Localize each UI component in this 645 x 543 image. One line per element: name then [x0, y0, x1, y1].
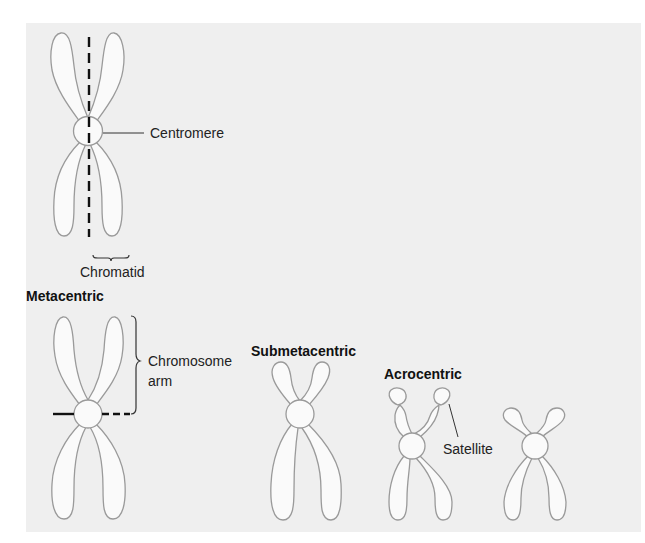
submetacentric-chromosome: Submetacentric	[251, 343, 356, 520]
metacentric-chromosome: Metacentric Chromosome arm	[26, 288, 232, 519]
submeta-lower-left-arm	[271, 424, 298, 520]
acrocentric-chromosome	[503, 408, 566, 520]
chromosome-arm-label-line1: Chromosome	[148, 353, 232, 369]
acrocentric-chromosome-satellite: Acrocentric Satellite	[384, 366, 493, 520]
submeta-centromere	[286, 400, 314, 428]
satellite-right	[434, 388, 450, 405]
acro2-lower-right-arm	[538, 456, 566, 520]
acro1-lower-right-arm	[416, 456, 452, 520]
top-lower-left-arm	[54, 142, 86, 236]
submeta-lower-right-arm	[302, 424, 341, 520]
submetacentric-title: Submetacentric	[251, 343, 356, 359]
acro1-short-left-arm	[395, 405, 412, 437]
chromatid-label: Chromatid	[80, 264, 145, 280]
chromosome-diagram: Centromere Chromatid Metacentric Chromos…	[0, 0, 645, 543]
acro1-lower-left-arm	[389, 456, 410, 520]
acro2-short-left-arm	[503, 408, 532, 437]
top-upper-right-arm	[88, 33, 124, 122]
chromosome-arm-brace	[131, 316, 140, 414]
meta-upper-left-arm	[54, 317, 88, 405]
acro1-centromere	[399, 433, 425, 459]
meta-centromere	[74, 400, 102, 428]
submeta-upper-left-arm	[272, 362, 300, 406]
acro1-short-right-arm	[414, 405, 439, 437]
centromere-label: Centromere	[150, 125, 224, 141]
meta-lower-right-arm	[90, 424, 125, 519]
meta-lower-left-arm	[52, 424, 86, 519]
meta-upper-right-arm	[88, 317, 123, 405]
chromatid-brace	[93, 255, 129, 261]
acro2-short-right-arm	[536, 408, 565, 437]
submeta-upper-right-arm	[300, 362, 330, 406]
top-upper-left-arm	[51, 33, 88, 122]
satellite-label: Satellite	[443, 441, 493, 457]
acro2-lower-left-arm	[504, 456, 532, 520]
satellite-leader-line	[449, 404, 458, 437]
acro2-centromere	[522, 433, 548, 459]
chromosome-arm-label-line2: arm	[148, 373, 172, 389]
top-lower-right-arm	[90, 142, 122, 236]
top-chromosome: Centromere Chromatid	[51, 33, 224, 280]
metacentric-title: Metacentric	[26, 288, 104, 304]
satellite-left	[389, 388, 406, 405]
acrocentric-title: Acrocentric	[384, 366, 462, 382]
